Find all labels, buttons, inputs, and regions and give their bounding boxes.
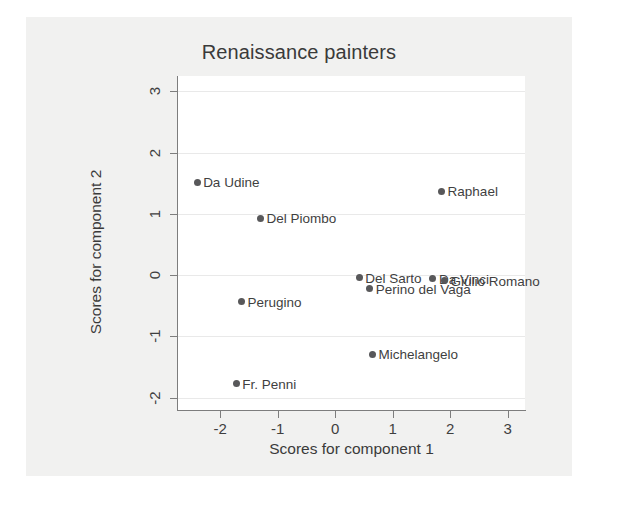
data-point <box>233 380 240 387</box>
gridline-horizontal <box>177 153 525 154</box>
y-axis-tick-label: 3 <box>146 81 163 101</box>
x-axis-tick <box>278 411 279 418</box>
data-point <box>369 351 376 358</box>
y-axis-tick-label: 2 <box>146 143 163 163</box>
y-axis-tick <box>170 336 177 337</box>
y-axis-tick-label: 1 <box>146 204 163 224</box>
data-point <box>356 274 363 281</box>
data-point-label: Michelangelo <box>379 347 459 362</box>
y-axis-tick <box>170 275 177 276</box>
chart-figure: Renaissance painters Scores for componen… <box>26 17 572 476</box>
data-point-label: Fr. Penni <box>242 376 296 391</box>
y-axis-tick <box>170 398 177 399</box>
y-axis-line <box>177 76 178 411</box>
gridline-horizontal <box>177 91 525 92</box>
data-point-label: Del Piombo <box>266 211 336 226</box>
data-point-label: Perugino <box>247 294 301 309</box>
y-axis-tick-label: 0 <box>146 265 163 285</box>
data-point-label: Giulio Romano <box>450 273 539 288</box>
data-point <box>238 298 245 305</box>
x-axis-tick-label: -2 <box>209 420 231 437</box>
screenshot-page: Renaissance painters Scores for componen… <box>0 0 636 513</box>
plot-area <box>177 76 525 410</box>
x-axis-tick <box>335 411 336 418</box>
x-axis-label: Scores for component 1 <box>177 440 526 458</box>
x-axis-tick <box>220 411 221 418</box>
data-point <box>194 179 201 186</box>
chart-title: Renaissance painters <box>26 41 572 64</box>
x-axis-tick <box>393 411 394 418</box>
x-axis-tick-label: 3 <box>497 420 519 437</box>
data-point <box>438 188 445 195</box>
y-axis-tick <box>170 153 177 154</box>
y-axis-tick-label: -1 <box>146 326 163 346</box>
y-axis-label: Scores for component 2 <box>87 122 105 382</box>
data-point <box>257 215 264 222</box>
data-point-label: Raphael <box>448 184 498 199</box>
x-axis-tick-label: 0 <box>324 420 346 437</box>
x-axis-tick-label: 1 <box>382 420 404 437</box>
x-axis-line <box>177 410 526 411</box>
x-axis-tick-label: -1 <box>267 420 289 437</box>
x-axis-tick <box>450 411 451 418</box>
data-point-label: Da Udine <box>203 175 259 190</box>
y-axis-tick-label: -2 <box>146 388 163 408</box>
x-axis-tick-label: 2 <box>439 420 461 437</box>
gridline-horizontal <box>177 336 525 337</box>
y-axis-tick <box>170 91 177 92</box>
x-axis-tick <box>508 411 509 418</box>
gridline-horizontal <box>177 398 525 399</box>
y-axis-tick <box>170 214 177 215</box>
gridline-horizontal <box>177 214 525 215</box>
